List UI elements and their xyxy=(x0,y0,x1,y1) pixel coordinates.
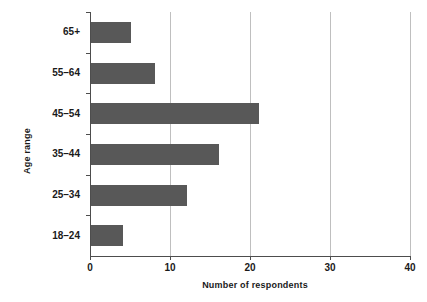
bar xyxy=(91,63,155,84)
x-axis-tick xyxy=(90,256,91,260)
y-axis-tick xyxy=(86,175,90,176)
x-axis-tick-label: 30 xyxy=(310,262,350,273)
y-axis-tick-label: 35–44 xyxy=(6,149,80,159)
bar-chart: Age range 010203040 18–2425–3435–4445–54… xyxy=(0,0,427,302)
bar xyxy=(91,103,259,124)
x-axis-tick-label: 20 xyxy=(230,262,270,273)
bar xyxy=(91,225,123,246)
gridline xyxy=(330,12,331,256)
bar xyxy=(91,144,219,165)
x-axis-tick xyxy=(170,256,171,260)
x-axis-tick-label: 0 xyxy=(70,262,110,273)
y-axis-tick xyxy=(86,53,90,54)
gridline xyxy=(170,12,171,256)
y-axis-tick xyxy=(86,12,90,13)
y-axis-tick-label: 55–64 xyxy=(6,68,80,78)
y-axis-tick xyxy=(86,215,90,216)
y-axis-tick-label: 45–54 xyxy=(6,109,80,119)
y-axis-tick xyxy=(86,93,90,94)
x-axis-title: Number of respondents xyxy=(90,280,420,290)
gridline xyxy=(410,12,411,256)
gridline xyxy=(250,12,251,256)
y-axis-tick-label: 65+ xyxy=(6,27,80,37)
y-axis-tick-label: 25–34 xyxy=(6,190,80,200)
x-axis-tick xyxy=(410,256,411,260)
x-axis-tick-label: 40 xyxy=(390,262,427,273)
y-axis-tick xyxy=(86,134,90,135)
x-axis-tick-label: 10 xyxy=(150,262,190,273)
x-axis-tick xyxy=(330,256,331,260)
bar xyxy=(91,22,131,43)
y-axis-tick-label: 18–24 xyxy=(6,231,80,241)
x-axis-tick xyxy=(250,256,251,260)
bar xyxy=(91,185,187,206)
y-axis-line xyxy=(90,12,91,256)
plot-area: 010203040 18–2425–3435–4445–5455–6465+ xyxy=(90,12,410,256)
